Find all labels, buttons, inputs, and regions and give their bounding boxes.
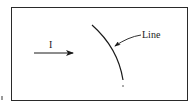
curved-line <box>92 25 123 80</box>
line-callout-label: Line <box>142 30 160 40</box>
diagram-drawing <box>0 0 196 108</box>
curve-end-dot <box>122 85 123 86</box>
current-label: I <box>49 40 52 50</box>
callout-leader-arrow <box>115 35 141 46</box>
